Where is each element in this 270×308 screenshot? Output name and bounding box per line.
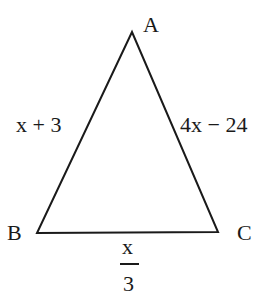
side-label-ac: 4x − 24 (180, 114, 247, 136)
side-label-bc-denominator: 3 (123, 273, 134, 295)
triangle-diagram (0, 0, 270, 308)
vertex-label-a: A (143, 14, 159, 36)
side-label-ab: x + 3 (16, 114, 61, 136)
side-label-bc-numerator: x (122, 236, 133, 258)
vertex-label-b: B (7, 222, 22, 244)
fraction-bar (120, 263, 139, 265)
vertex-label-c: C (237, 222, 252, 244)
